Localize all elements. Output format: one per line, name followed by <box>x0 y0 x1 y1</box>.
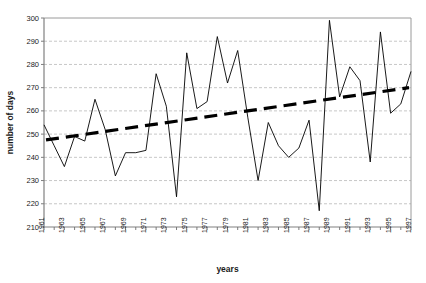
y-tick-label: 270 <box>26 83 39 92</box>
y-tick-label: 260 <box>26 106 39 115</box>
y-tick-label: 300 <box>26 14 39 23</box>
data-series-line <box>44 20 411 210</box>
x-tick-label: 1985 <box>283 217 290 233</box>
x-tick-label: 1967 <box>99 217 106 233</box>
x-tick-label: 1987 <box>303 217 310 233</box>
y-tick-label: 220 <box>26 199 39 208</box>
y-tick-label: 240 <box>26 153 39 162</box>
x-tick-label: 1973 <box>160 217 167 233</box>
x-tick-label: 1963 <box>58 217 65 233</box>
y-tick-label: 290 <box>26 37 39 46</box>
x-tick-label: 1995 <box>385 217 392 233</box>
y-tick-label: 280 <box>26 60 39 69</box>
x-tick-label: 1989 <box>323 217 330 233</box>
x-tick-label: 1977 <box>201 217 208 233</box>
chart-container: 2102202302402502602702802903001961196319… <box>0 0 426 283</box>
x-tick-label: 1991 <box>344 217 351 233</box>
x-tick-label: 1975 <box>181 217 188 233</box>
trend-line <box>46 88 409 140</box>
x-tick-label: 1969 <box>120 217 127 233</box>
line-chart: 2102202302402502602702802903001961196319… <box>0 0 426 283</box>
x-tick-label: 1971 <box>140 217 147 233</box>
x-tick-label: 1983 <box>262 217 269 233</box>
x-axis-title: years <box>216 264 238 274</box>
x-tick-label: 1979 <box>222 217 229 233</box>
x-tick-label: 1961 <box>38 217 45 233</box>
x-tick-label: 1965 <box>79 217 86 233</box>
y-tick-label: 230 <box>26 176 39 185</box>
x-tick-label: 1981 <box>242 217 249 233</box>
y-axis-title: number of days <box>5 91 15 155</box>
x-tick-label: 1993 <box>364 217 371 233</box>
x-tick-label: 1997 <box>405 217 412 233</box>
y-tick-label: 250 <box>26 130 39 139</box>
